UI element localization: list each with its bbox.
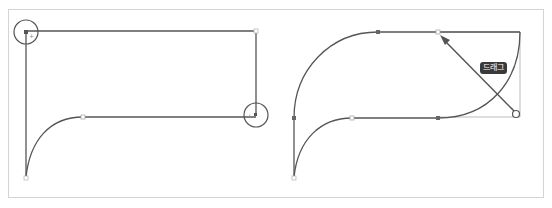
- svg-text:+: +: [247, 112, 252, 119]
- left-panel: [26, 31, 256, 177]
- anchor-top-right: [254, 29, 258, 33]
- diagram-canvas: + +: [0, 0, 552, 208]
- anchor-top-left: [24, 30, 28, 34]
- svg-text:+: +: [29, 32, 34, 39]
- drag-handle: [513, 111, 520, 118]
- drag-label: 드래그: [480, 62, 507, 74]
- right-panel: [294, 32, 520, 177]
- anchor-bottom-left: [24, 176, 28, 180]
- anchor-curve-end: [81, 115, 85, 119]
- anchor-bottom-right: [254, 113, 257, 116]
- left-anchors: + +: [14, 20, 268, 180]
